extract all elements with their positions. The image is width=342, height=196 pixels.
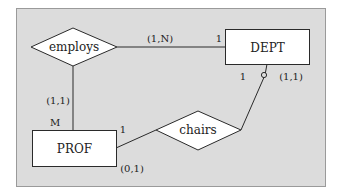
chairs-prof-cardinality: 1 — [120, 124, 126, 135]
chairs-dept-participation: (1,1) — [279, 71, 303, 82]
er-diagram: DEPT PROF employs chairs (1,N) 1 (1,1) M… — [0, 0, 342, 196]
participation-circle-icon — [261, 72, 266, 77]
entity-prof[interactable]: PROF — [33, 131, 117, 167]
entity-prof-label: PROF — [57, 142, 92, 156]
entity-dept-label: DEPT — [250, 41, 284, 55]
relationship-employs-label: employs — [49, 40, 99, 54]
employs-prof-participation: (1,1) — [46, 95, 70, 106]
entity-dept[interactable]: DEPT — [226, 30, 310, 65]
employs-dept-participation: (1,N) — [147, 33, 173, 44]
employs-prof-cardinality: M — [50, 117, 60, 128]
chairs-dept-cardinality: 1 — [240, 71, 246, 82]
relationship-chairs-label: chairs — [179, 123, 216, 137]
employs-dept-cardinality: 1 — [216, 33, 222, 44]
chairs-prof-participation: (0,1) — [120, 163, 144, 174]
